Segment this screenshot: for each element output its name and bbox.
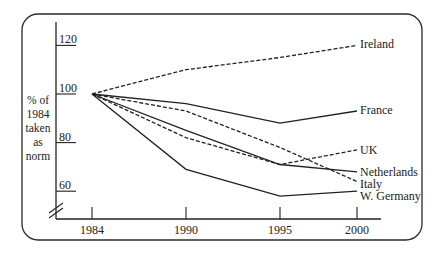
y-tick-label: 80 (59, 130, 71, 144)
y-axis-ticks: 1201008060 (56, 32, 77, 192)
y-tick-label: 60 (59, 178, 71, 192)
series-line-uk (92, 94, 357, 165)
y-label-line: as (33, 136, 43, 148)
y-axis-label: % of1984takenasnorm (26, 94, 51, 162)
y-label-line: taken (26, 122, 51, 134)
x-tick-label: 1984 (80, 223, 104, 237)
series-label-ireland: Ireland (360, 37, 394, 51)
x-tick-label: 1990 (174, 223, 198, 237)
x-tick-label: 2000 (345, 223, 369, 237)
y-tick-label: 120 (59, 32, 77, 46)
y-label-line: 1984 (27, 108, 50, 120)
y-tick-label: 100 (59, 81, 77, 95)
series-label-w-germany: W. Germany (360, 189, 421, 203)
series-line-france (92, 94, 357, 123)
series-lines: IrelandFranceUKNetherlandsItalyW. German… (92, 37, 421, 203)
y-label-line: % of (27, 94, 49, 106)
x-tick-label: 1995 (268, 223, 292, 237)
series-label-france: France (360, 103, 393, 117)
series-line-ireland (92, 45, 357, 94)
series-label-uk: UK (360, 143, 378, 157)
x-axis-ticks: 1984199019952000 (80, 207, 369, 237)
line-chart: 1201008060 % of1984takenasnorm 198419901… (0, 0, 441, 253)
y-label-line: norm (26, 150, 50, 162)
series-line-netherlands (92, 94, 357, 172)
